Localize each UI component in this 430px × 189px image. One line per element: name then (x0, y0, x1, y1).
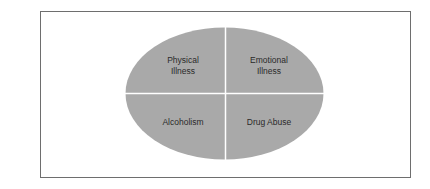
quadrant-label-line1: Alcoholism (138, 117, 228, 128)
quadrant-label-line1: Drug Abuse (224, 117, 314, 128)
quadrant-emotional-illness: Emotional Illness (224, 55, 314, 77)
quadrant-physical-illness: Physical Illness (138, 55, 228, 77)
quadrant-alcoholism: Alcoholism (138, 117, 228, 128)
quadrant-label-line2: Illness (138, 66, 228, 77)
quadrant-label-line2: Illness (224, 66, 314, 77)
quadrant-label-line1: Physical (138, 55, 228, 66)
quadrant-label-line1: Emotional (224, 55, 314, 66)
quadrant-drug-abuse: Drug Abuse (224, 117, 314, 128)
quadrant-ellipse (0, 0, 430, 189)
